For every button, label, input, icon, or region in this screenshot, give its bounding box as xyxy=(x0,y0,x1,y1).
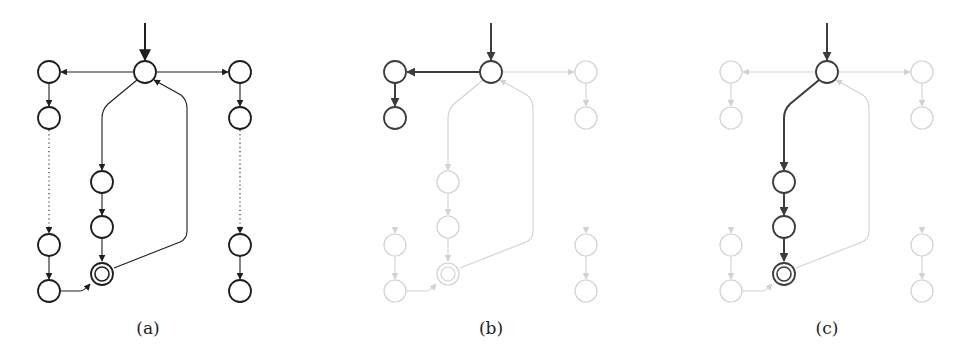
state-node-M2 xyxy=(91,216,113,238)
edge-F-top xyxy=(460,80,533,268)
state-node-L4 xyxy=(384,280,406,302)
state-node-top xyxy=(480,61,502,83)
state-node-R3 xyxy=(575,234,597,256)
state-node-M2 xyxy=(773,216,795,238)
state-node-R4 xyxy=(911,280,933,302)
state-node-top xyxy=(134,61,156,83)
state-node-L3 xyxy=(720,234,742,256)
panel-a xyxy=(38,23,251,302)
caption-c: (c) xyxy=(797,318,857,338)
state-node-M1 xyxy=(437,171,459,193)
nfa-diagram-figure xyxy=(0,0,964,364)
state-node-L4 xyxy=(720,280,742,302)
caption-a: (a) xyxy=(118,318,178,338)
state-node-top xyxy=(816,61,838,83)
state-node-L3 xyxy=(38,234,60,256)
state-node-L2 xyxy=(38,107,60,129)
state-node-R3 xyxy=(229,234,251,256)
state-node-R1 xyxy=(229,61,251,83)
edge-L4-F xyxy=(742,284,772,291)
state-node-L2 xyxy=(384,107,406,129)
state-node-M1 xyxy=(773,171,795,193)
state-node-L2 xyxy=(720,107,742,129)
state-node-R1 xyxy=(575,61,597,83)
edge-top-M1 xyxy=(448,80,483,170)
accepting-state-node xyxy=(437,263,459,285)
state-node-R3 xyxy=(911,234,933,256)
edge-top-M1 xyxy=(784,80,819,170)
state-node-L3 xyxy=(384,234,406,256)
state-node-L1 xyxy=(38,61,60,83)
edge-L4-F xyxy=(406,284,436,291)
caption-b: (b) xyxy=(461,318,521,338)
edge-F-top xyxy=(796,80,869,268)
state-node-R4 xyxy=(575,280,597,302)
state-node-R2 xyxy=(911,107,933,129)
edge-L4-F xyxy=(60,284,90,291)
state-node-M1 xyxy=(91,171,113,193)
state-node-L1 xyxy=(720,61,742,83)
edge-F-top xyxy=(114,80,187,268)
state-node-L4 xyxy=(38,280,60,302)
state-node-R1 xyxy=(911,61,933,83)
edge-top-M1 xyxy=(102,80,137,170)
panel-c xyxy=(720,23,933,302)
state-node-R4 xyxy=(229,280,251,302)
state-node-R2 xyxy=(575,107,597,129)
state-node-M2 xyxy=(437,216,459,238)
panel-b xyxy=(384,23,597,302)
state-node-R2 xyxy=(229,107,251,129)
state-node-L1 xyxy=(384,61,406,83)
